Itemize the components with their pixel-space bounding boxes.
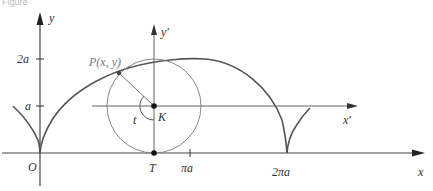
y-axis-label: y [48,11,55,25]
contact-point-T [151,150,157,156]
local-y-arrow-icon [151,24,157,35]
angle-label-t: t [133,113,137,127]
center-label-K: K [157,110,167,124]
origin-label: O [28,160,37,174]
local-x-arrow-icon [347,103,358,109]
center-point-K [151,103,157,109]
x-tick-label-pi-a: πa [181,161,193,175]
figure-caption: Figure [2,0,28,7]
local-y-label: y′ [160,25,169,39]
radius-KP [119,73,154,106]
y-tick-label-a: a [25,99,31,113]
cycloid-left-branch-outer [13,106,40,153]
point-P [117,71,121,75]
point-label-P: P(x, y) [88,55,121,69]
cycloid-right-branch [287,108,310,153]
x-axis-label: x [417,165,424,179]
y-axis [37,12,44,186]
contact-label-T: T [149,161,157,175]
x-tick-label-2pi-a: 2πa [272,165,290,179]
cycloid-diagram: Figure x y 2a a πa 2πa O x′ y′ t [0,0,433,191]
x-axis [2,150,425,157]
x-axis-arrow-icon [412,150,425,157]
y-axis-arrow-icon [37,12,44,25]
local-x-label: x′ [342,113,351,127]
local-y-axis [151,24,157,153]
local-x-axis [92,103,358,109]
y-tick-label-2a: 2a [17,52,29,66]
